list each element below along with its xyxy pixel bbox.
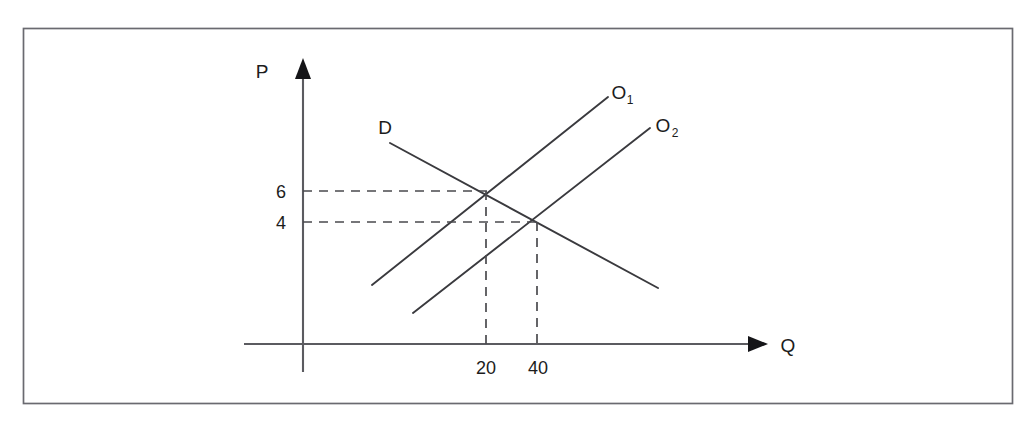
y-tick-label-6: 6 <box>276 182 286 202</box>
demand-curve-label: D <box>378 117 392 138</box>
supply-curve-1-subscript: 1 <box>627 93 634 107</box>
x-tick-label-40: 40 <box>528 358 548 378</box>
figure-border <box>24 29 1013 404</box>
supply-curve-2-subscript: 2 <box>672 126 679 140</box>
supply-curve-2 <box>413 128 650 313</box>
supply-curve-2-label: O <box>656 115 671 136</box>
y-tick-label-4: 4 <box>276 213 286 233</box>
quantity-axis-arrowhead <box>748 336 768 352</box>
quantity-axis-label: Q <box>781 335 796 356</box>
supply-curve-1-label: O <box>612 82 627 103</box>
supply-demand-figure: P Q D O 1 O 2 6 4 20 40 <box>0 0 1033 427</box>
economics-diagram-canvas: P Q D O 1 O 2 6 4 20 40 <box>0 0 1033 427</box>
price-axis-label: P <box>256 61 269 82</box>
price-axis-arrowhead <box>295 58 311 79</box>
x-tick-label-20: 20 <box>476 358 496 378</box>
